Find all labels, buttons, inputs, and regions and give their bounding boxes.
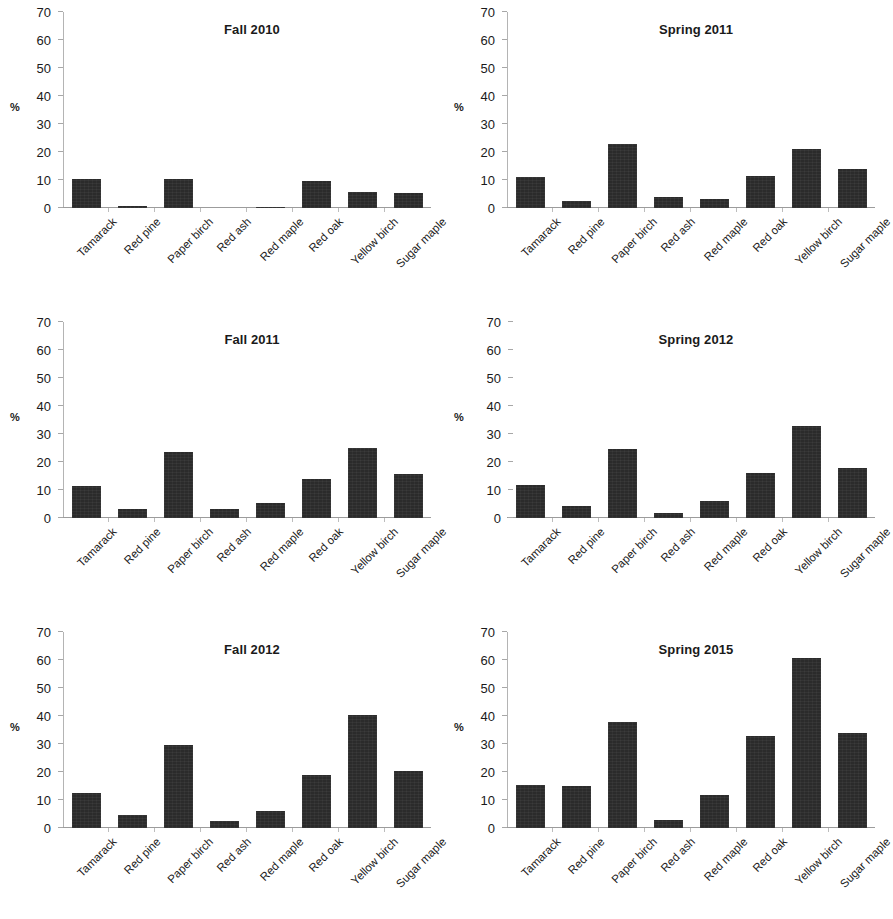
bar bbox=[210, 821, 239, 828]
x-label-slot: Red ash bbox=[201, 832, 247, 918]
bar bbox=[164, 452, 193, 518]
bar bbox=[394, 193, 423, 208]
x-label-slot: Tamarack bbox=[507, 832, 553, 918]
x-label-slot: Tamarack bbox=[63, 522, 109, 608]
y-tick-label: 70 bbox=[481, 6, 495, 19]
y-tick-label: 20 bbox=[481, 766, 495, 779]
x-label-slot: Yellow birch bbox=[783, 522, 829, 608]
y-tick-label: 10 bbox=[37, 484, 51, 497]
bar-slot bbox=[385, 322, 431, 518]
bar-slot bbox=[599, 632, 645, 828]
x-label-slot: Red ash bbox=[645, 832, 691, 918]
bar-slot bbox=[829, 12, 875, 208]
x-label-slot: Red ash bbox=[645, 212, 691, 298]
plot-area: 010203040506070 bbox=[507, 12, 875, 208]
x-label-slot: Sugar maple bbox=[385, 832, 431, 918]
y-tick-label: 0 bbox=[488, 822, 495, 835]
x-label-slot: Red maple bbox=[247, 522, 293, 608]
y-tick-label: 50 bbox=[481, 62, 495, 75]
x-axis-labels: TamarackRed pinePaper birchRed ashRed ma… bbox=[63, 212, 431, 298]
bar bbox=[608, 722, 637, 828]
plot-area: 010203040506070 bbox=[507, 322, 875, 518]
y-tick-label: 60 bbox=[37, 344, 51, 357]
x-axis-labels: TamarackRed pinePaper birchRed ashRed ma… bbox=[63, 522, 431, 608]
y-axis-unit-label: % bbox=[454, 411, 464, 423]
bar bbox=[654, 820, 683, 828]
plot-area: 010203040506070 bbox=[507, 632, 875, 828]
bar-slot bbox=[691, 12, 737, 208]
x-label-slot: Paper birch bbox=[155, 832, 201, 918]
bar-slot bbox=[783, 322, 829, 518]
bar bbox=[516, 177, 545, 208]
x-label-slot: Paper birch bbox=[599, 832, 645, 918]
y-tick-label: 10 bbox=[481, 794, 495, 807]
y-tick-label: 30 bbox=[37, 118, 51, 131]
bar bbox=[164, 745, 193, 828]
x-tick-label: Sugar maple bbox=[394, 216, 448, 270]
bar bbox=[118, 509, 147, 518]
bar bbox=[746, 736, 775, 828]
bar bbox=[164, 179, 193, 208]
y-tick-label: 0 bbox=[44, 512, 51, 525]
x-label-slot: Yellow birch bbox=[339, 832, 385, 918]
x-label-slot: Tamarack bbox=[507, 522, 553, 608]
y-tick-label: 0 bbox=[44, 202, 51, 215]
plot-area: 010203040506070 bbox=[63, 12, 431, 208]
bar bbox=[746, 473, 775, 518]
bar-slot bbox=[293, 12, 339, 208]
bar bbox=[746, 176, 775, 208]
bar-slot bbox=[737, 632, 783, 828]
y-tick-label: 20 bbox=[37, 766, 51, 779]
x-label-slot: Tamarack bbox=[63, 832, 109, 918]
bar-slot bbox=[155, 632, 201, 828]
bar bbox=[562, 506, 591, 518]
y-tick-label: 60 bbox=[481, 34, 495, 47]
x-label-slot: Tamarack bbox=[63, 212, 109, 298]
bar-slot bbox=[645, 632, 691, 828]
bar-series bbox=[507, 12, 875, 208]
x-label-slot: Red maple bbox=[691, 212, 737, 298]
y-tick-label: 60 bbox=[481, 654, 495, 667]
y-tick-label: 30 bbox=[481, 118, 495, 131]
bar-slot bbox=[599, 322, 645, 518]
x-label-slot: Red oak bbox=[737, 212, 783, 298]
bar bbox=[516, 485, 545, 518]
x-label-slot: Red ash bbox=[201, 522, 247, 608]
bar-slot bbox=[829, 322, 875, 518]
x-label-slot: Red pine bbox=[553, 832, 599, 918]
bar bbox=[838, 733, 867, 828]
bar bbox=[72, 486, 101, 518]
y-tick-label: 60 bbox=[487, 344, 501, 357]
chart-panel-fall-2011: Fall 2011%010203040506070TamarackRed pin… bbox=[0, 310, 444, 620]
y-tick-label: 10 bbox=[37, 174, 51, 187]
y-tick-label: 50 bbox=[481, 682, 495, 695]
y-tick-label: 10 bbox=[481, 174, 495, 187]
x-tick-label: Sugar maple bbox=[838, 526, 892, 580]
bar-slot bbox=[201, 632, 247, 828]
chart-panel-spring-2015: Spring 2015%010203040506070TamarackRed p… bbox=[444, 620, 888, 919]
chart-panel-spring-2012: Spring 2012%010203040506070TamarackRed p… bbox=[444, 310, 888, 620]
x-tick-label: Sugar maple bbox=[394, 526, 448, 580]
y-tick-label: 40 bbox=[487, 400, 501, 413]
y-tick-label: 70 bbox=[481, 626, 495, 639]
x-tick-label: Sugar maple bbox=[838, 216, 892, 270]
bar bbox=[256, 503, 285, 518]
bar bbox=[256, 811, 285, 828]
x-label-slot: Red maple bbox=[691, 832, 737, 918]
x-label-slot: Sugar maple bbox=[829, 212, 875, 298]
bar-series bbox=[507, 322, 875, 518]
y-tick-label: 70 bbox=[37, 626, 51, 639]
bar-slot bbox=[201, 12, 247, 208]
y-tick-label: 20 bbox=[37, 456, 51, 469]
x-label-slot: Paper birch bbox=[155, 522, 201, 608]
bar-slot bbox=[155, 322, 201, 518]
y-tick-label: 50 bbox=[37, 682, 51, 695]
bar-slot bbox=[553, 632, 599, 828]
bar-slot bbox=[109, 632, 155, 828]
chart-panel-spring-2011: Spring 2011%010203040506070TamarackRed p… bbox=[444, 0, 888, 310]
plot-area: 010203040506070 bbox=[63, 322, 431, 518]
bar bbox=[608, 449, 637, 518]
bar bbox=[792, 426, 821, 518]
x-label-slot: Red pine bbox=[553, 212, 599, 298]
